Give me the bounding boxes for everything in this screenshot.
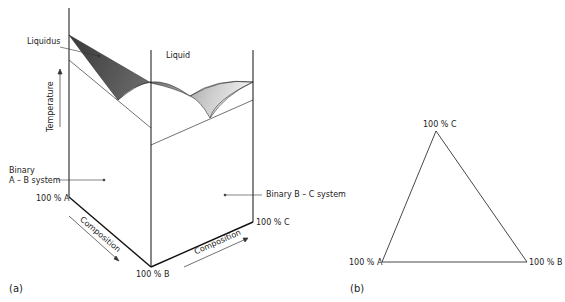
ternary-phase-diagram <box>0 0 565 302</box>
panel-a-label: (a) <box>9 283 23 295</box>
corner-a-label: 100 % A <box>36 194 69 203</box>
liquidus-surface <box>69 35 253 118</box>
binary-ab-label-line1: Binary <box>9 166 35 175</box>
leader-lines <box>58 47 262 196</box>
liquid-label: Liquid <box>166 51 190 60</box>
corner-c-label: 100 % C <box>256 218 290 227</box>
temperature-axis-label: Temperature <box>46 81 55 132</box>
corner-b-label: 100 % B <box>136 270 169 279</box>
eutectic-lines <box>69 60 253 145</box>
panel-b-label: (b) <box>350 283 364 295</box>
vertex-a-label: 100 % A <box>349 258 382 267</box>
vertex-c-label: 100 % C <box>423 120 457 129</box>
ternary-triangle <box>382 131 527 262</box>
binary-ab-label-line2: A – B system <box>9 176 61 185</box>
liquidus-label: Liquidus <box>27 37 60 46</box>
temperature-arrow-icon <box>58 69 62 127</box>
vertex-b-label: 100 % B <box>529 258 562 267</box>
binary-bc-label: Binary B – C system <box>266 190 346 199</box>
